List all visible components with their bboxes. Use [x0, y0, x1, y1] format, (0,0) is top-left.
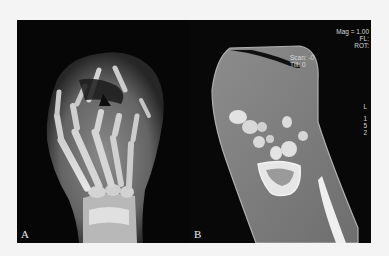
fl-text: FL: — [336, 35, 369, 42]
rot-text: ROT: — [336, 42, 369, 49]
panel-label-b: B — [194, 228, 201, 240]
scan-text: Scan: -0 — [290, 54, 314, 61]
ct-overlay-scan: Scan: -0 Tilt: 0 — [290, 54, 314, 68]
side-digit-1: 1 — [363, 115, 367, 122]
side-digit-2: 5 — [363, 122, 367, 129]
ct-overlay-magnification: Mag = 1.00 FL: ROT: — [336, 28, 369, 49]
mag-text: Mag = 1.00 — [336, 28, 369, 35]
metacarpal-5 — [129, 144, 131, 186]
panel-b-ct: Mag = 1.00 FL: ROT: Scan: -0 Tilt: 0 L 1… — [190, 20, 371, 243]
tilt-text: Tilt: 0 — [290, 61, 314, 68]
hand-xray-image — [17, 20, 190, 243]
ct-overlay-side: L 1 5 2 — [363, 103, 367, 136]
panel-label-a: A — [21, 228, 29, 240]
wrist-ct-image — [190, 20, 371, 243]
figure: A — [17, 20, 371, 243]
panel-a-xray: A — [17, 20, 190, 243]
side-digit-3: 2 — [363, 129, 367, 136]
side-letter: L — [363, 103, 367, 110]
